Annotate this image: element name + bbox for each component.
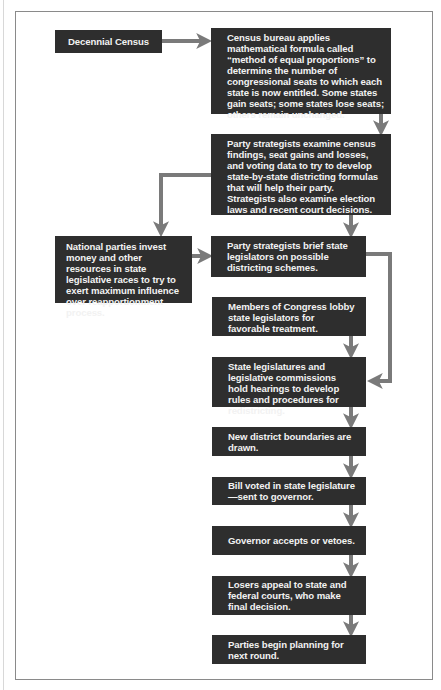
node-congress-lobby: Members of Congress lobby state legislat… — [212, 297, 366, 336]
node-decennial-census: Decennial Census — [55, 30, 162, 53]
node-boundaries: New district boundaries are drawn. — [212, 427, 366, 456]
node-label: Party strategists examine census finding… — [227, 138, 378, 215]
node-appeal: Losers appeal to state and federal court… — [212, 576, 366, 615]
node-label: Governor accepts or vetoes. — [228, 535, 355, 546]
node-strategists-brief: Party strategists brief state legislator… — [211, 236, 366, 277]
node-strategists-examine: Party strategists examine census finding… — [211, 134, 391, 215]
node-national-parties: National parties invest money and other … — [55, 236, 192, 303]
node-label: Party strategists brief state legislator… — [227, 240, 348, 273]
node-bill: Bill voted in state legislature—sent to … — [212, 477, 366, 505]
node-label: New district boundaries are drawn. — [228, 431, 358, 453]
node-governor: Governor accepts or vetoes. — [212, 526, 366, 555]
node-next-round: Parties begin planning for next round. — [212, 635, 366, 664]
page-edge — [3, 0, 4, 690]
node-label: National parties invest money and other … — [66, 241, 179, 318]
node-census-bureau: Census bureau applies mathematical formu… — [211, 28, 391, 114]
node-label: Losers appeal to state and federal court… — [228, 579, 358, 612]
node-label: Decennial Census — [68, 36, 149, 47]
node-label: Census bureau applies mathematical formu… — [227, 32, 384, 120]
node-label: Members of Congress lobby state legislat… — [228, 301, 355, 334]
node-label: Parties begin planning for next round. — [228, 639, 358, 661]
node-hearings: State legislatures and legislative commi… — [212, 357, 366, 407]
node-label: Bill voted in state legislature—sent to … — [228, 480, 358, 502]
